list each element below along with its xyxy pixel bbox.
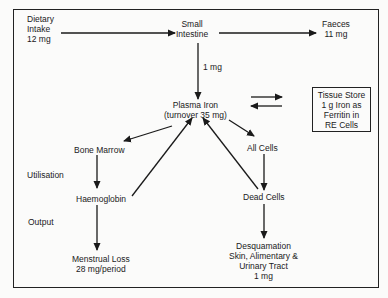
- node-plasma-iron: Plasma Iron (turnover 35 mg): [164, 100, 227, 120]
- node-dietary-intake: Dietary Intake 12 mg: [27, 14, 54, 44]
- node-haemoglobin: Haemoglobin: [76, 194, 126, 204]
- arrow-deadcells-to-plasma: [203, 118, 258, 189]
- edge-label-absorption: 1 mg: [203, 62, 222, 72]
- node-small-intestine: Small Intestine: [176, 19, 208, 39]
- arrows-layer: [0, 0, 388, 298]
- node-all-cells: All Cells: [247, 143, 278, 153]
- label-output: Output: [28, 217, 54, 227]
- arrow-plasma-to-bonemarrow: [124, 126, 172, 141]
- node-menstrual-loss: Menstrual Loss 28 mg/period: [72, 254, 130, 274]
- node-desquamation: Desquamation Skin, Alimentary & Urinary …: [229, 241, 298, 281]
- arrow-plasma-to-allcells: [229, 120, 254, 136]
- label-utilisation: Utilisation: [27, 170, 64, 180]
- node-dead-cells: Dead Cells: [243, 192, 285, 202]
- node-bone-marrow: Bone Marrow: [74, 145, 125, 155]
- node-faeces: Faeces 11 mg: [322, 19, 350, 39]
- node-tissue-store: Tissue Store 1 g Iron as Ferritin in RE …: [312, 87, 371, 132]
